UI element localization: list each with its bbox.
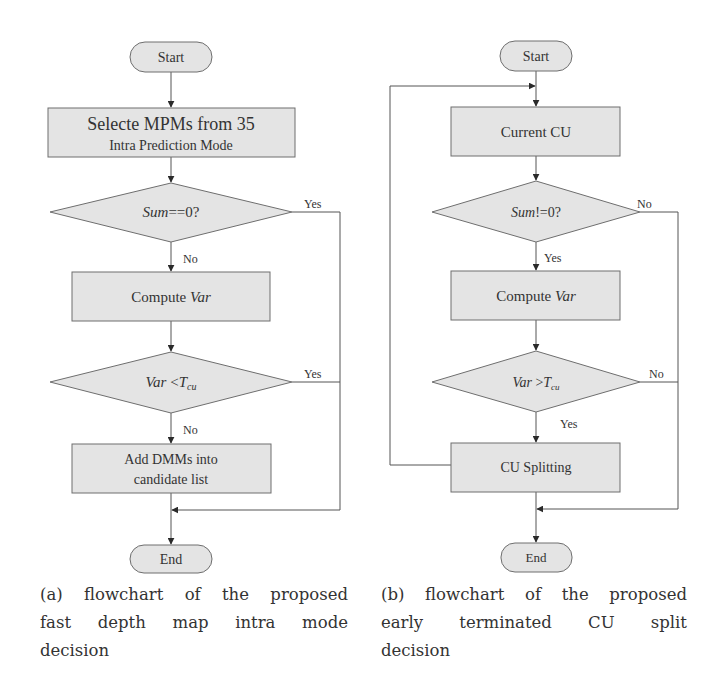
caption-b-line-1: (b) flowchart of the proposed [381,581,687,609]
sum-condition: ==0? [168,204,199,220]
caption-b: (b) flowchart of the proposed early term… [381,581,687,665]
decision1-no-label-b: No [637,197,652,211]
end-terminal-b: End [501,543,572,572]
process-add-dmms: Add DMMs into candidate list [72,444,271,493]
edge-decision1-no-bypass [640,212,678,509]
decision-sum-not-zero: Sum!=0? [432,181,640,242]
decision-sum-not-zero-label: Sum!=0? [511,205,561,220]
decision1-yes-label: Yes [304,197,322,211]
decision1-no-label: No [183,252,198,266]
process-compute-var-label: Compute Var [131,289,211,305]
process-current-cu-label: Current CU [501,124,572,140]
process-select-mpms: Selecte MPMs from 35 Intra Prediction Mo… [48,108,295,157]
decision1-yes-label-b: Yes [544,251,562,265]
caption-b-line-3: decision [381,637,687,665]
process-add-dmms-line2: candidate list [134,472,208,487]
start-terminal-b: Start [500,41,572,71]
caption-a-line-1: (a) flowchart of the proposed [40,581,348,609]
flowchart-a: Start Selecte MPMs from 35 Intra Predict… [48,42,340,573]
decision-sum-equals-zero: Sum==0? [50,183,292,242]
decision2-no-label-b: No [649,367,664,381]
start-label-b: Start [523,49,550,64]
process-cu-splitting: CU Splitting [451,443,620,492]
end-terminal: End [130,545,212,573]
caption-b-line-2: early terminated CU split [381,609,687,637]
start-label: Start [158,50,185,65]
process-current-cu: Current CU [451,107,620,156]
process-select-mpms-line2: Intra Prediction Mode [109,138,233,153]
start-terminal: Start [130,42,212,72]
process-compute-var: Compute Var [72,272,270,321]
flowchart-b: Start Current CU Sum!=0? No Yes Compute … [390,41,678,572]
decision2-no-label: No [183,423,198,437]
end-label: End [160,552,183,567]
decision-sum-equals-zero-label: Sum==0? [143,204,200,220]
end-label-b: End [526,550,547,565]
edge-loop-back [390,86,451,465]
process-add-dmms-line1: Add DMMs into [124,452,217,467]
process-cu-splitting-label: CU Splitting [500,460,571,475]
decision2-yes-label-b: Yes [560,417,578,431]
process-compute-var-b: Compute Var [451,271,620,320]
caption-a-line-2: fast depth map intra mode [40,609,348,637]
process-compute-var-b-label: Compute Var [496,288,576,304]
decision2-yes-label: Yes [304,367,322,381]
caption-a: (a) flowchart of the proposed fast depth… [40,581,348,665]
caption-a-line-3: decision [40,637,348,665]
process-select-mpms-line1: Selecte MPMs from 35 [87,114,254,134]
sum-variable: Sum [143,204,169,220]
decision-var-less-than-threshold: Var <Tcu [50,352,292,413]
decision-var-greater-than-threshold: Var >Tcu [432,351,640,412]
edge-decision1-yes-bypass [292,212,340,510]
